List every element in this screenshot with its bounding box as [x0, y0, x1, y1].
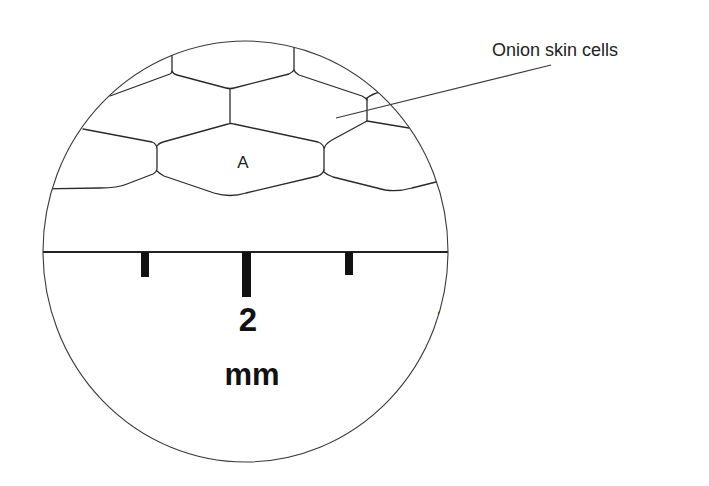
scale-number-3: 3 [437, 301, 455, 338]
scale-number-2: 2 [239, 301, 257, 338]
field-contents: 1 2 3 mm A [37, 40, 455, 392]
ruler-minor-tick-right [345, 252, 353, 275]
scale-number-1: 1 [37, 301, 55, 338]
scale-unit: mm [224, 357, 279, 392]
microscope-field-diagram: 1 2 3 mm A Onion skin cells [0, 0, 709, 486]
mm-ruler: 1 2 3 mm [37, 252, 455, 392]
ruler-major-tick-2 [242, 252, 251, 297]
onion-skin-cells-label: Onion skin cells [492, 40, 618, 60]
onion-cell-walls [40, 40, 440, 196]
ruler-minor-tick-left [141, 252, 149, 277]
label-leader-line [336, 65, 551, 118]
cell-label-a: A [237, 153, 249, 172]
